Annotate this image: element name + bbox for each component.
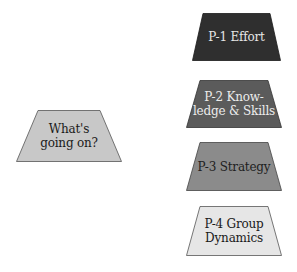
p3-strategy-label: P-3 Strategy (186, 142, 282, 191)
p4-group-dynamics-line-2: Dynamics (205, 231, 263, 245)
p4-group-dynamics-line-1: P-4 Group (204, 217, 263, 231)
p4-group-dynamics-label: P-4 Group Dynamics (186, 206, 282, 256)
p2-knowledge-skills-trapezoid: P-2 Know- ledge & Skills (186, 80, 282, 128)
center-question-line-2: going on? (40, 136, 98, 150)
p2-knowledge-skills-label: P-2 Know- ledge & Skills (186, 80, 282, 128)
p2-knowledge-skills-line-2: ledge & Skills (193, 104, 275, 118)
p1-effort-trapezoid: P-1 Effort (192, 13, 281, 61)
center-question-line-1: What's (49, 122, 89, 136)
p3-strategy-text: P-3 Strategy (198, 160, 271, 174)
center-question-trapezoid: What's going on? (16, 110, 122, 162)
p1-effort-label: P-1 Effort (192, 13, 281, 61)
p2-knowledge-skills-line-1: P-2 Know- (204, 90, 263, 104)
p4-group-dynamics-trapezoid: P-4 Group Dynamics (186, 206, 282, 256)
p3-strategy-trapezoid: P-3 Strategy (186, 142, 282, 191)
center-question-label: What's going on? (16, 110, 122, 162)
p1-effort-text: P-1 Effort (208, 30, 264, 44)
